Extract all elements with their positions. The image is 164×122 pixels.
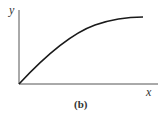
figure-caption: (b) xyxy=(74,98,87,110)
y-axis-label: y xyxy=(9,3,14,18)
curve xyxy=(19,17,143,84)
x-axis-label: x xyxy=(146,85,151,100)
figure: y x (b) xyxy=(0,0,164,122)
